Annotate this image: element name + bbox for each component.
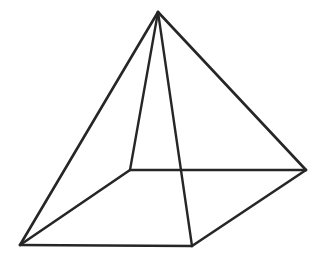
- background-rect: [0, 0, 328, 267]
- edge-base-left-front: [20, 245, 192, 246]
- pyramid-wireframe-svg: [0, 0, 328, 267]
- figure-canvas: [0, 0, 328, 267]
